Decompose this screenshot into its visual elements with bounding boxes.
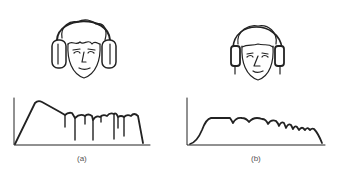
- panel-label-b: (b): [251, 154, 261, 163]
- response-chart-b: [0, 0, 338, 184]
